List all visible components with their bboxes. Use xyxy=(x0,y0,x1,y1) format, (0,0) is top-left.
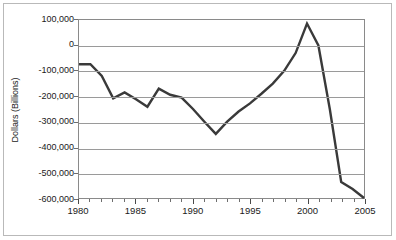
gridline xyxy=(79,174,364,175)
x-axis-minor-tick xyxy=(319,199,320,202)
x-axis-major-tick xyxy=(78,199,79,204)
x-axis-minor-tick xyxy=(216,199,217,202)
y-axis-tick-label: -200,000 xyxy=(38,92,74,101)
x-axis-minor-tick xyxy=(227,199,228,202)
gridline xyxy=(79,123,364,124)
x-axis-tick-label: 1980 xyxy=(67,205,88,216)
x-axis-minor-tick xyxy=(181,199,182,202)
chart-figure: Dollars (Billions) 100,0000-100,000-200,… xyxy=(0,0,396,240)
x-axis-minor-tick xyxy=(204,199,205,202)
x-axis-major-tick xyxy=(135,199,136,204)
gridline xyxy=(79,71,364,72)
x-axis-minor-tick xyxy=(262,199,263,202)
y-axis-tick-label: -400,000 xyxy=(38,143,74,152)
plot-area xyxy=(78,19,365,199)
x-axis-minor-tick xyxy=(239,199,240,202)
x-axis-major-tick xyxy=(250,199,251,204)
y-axis-tick-label: -100,000 xyxy=(38,66,74,75)
x-axis-major-tick xyxy=(193,199,194,204)
x-axis-tick-label: 1990 xyxy=(182,205,203,216)
x-axis-minor-tick xyxy=(273,199,274,202)
x-axis-major-tick xyxy=(308,199,309,204)
gridline xyxy=(79,149,364,150)
x-axis-minor-tick xyxy=(285,199,286,202)
gridline xyxy=(79,97,364,98)
y-axis-tick-label: -300,000 xyxy=(38,117,74,126)
x-axis-minor-tick xyxy=(147,199,148,202)
x-axis-tick-label: 1995 xyxy=(240,205,261,216)
x-axis-tick-label: 2000 xyxy=(297,205,318,216)
x-axis-tick-label: 2005 xyxy=(354,205,375,216)
x-axis-minor-tick xyxy=(89,199,90,202)
x-axis-minor-tick xyxy=(112,199,113,202)
x-axis-minor-tick xyxy=(170,199,171,202)
x-axis-minor-tick xyxy=(158,199,159,202)
x-axis-major-tick xyxy=(365,199,366,204)
x-axis-minor-tick xyxy=(101,199,102,202)
x-axis-tick-label: 1985 xyxy=(125,205,146,216)
x-axis-minor-tick xyxy=(296,199,297,202)
gridline xyxy=(79,46,364,47)
x-axis-minor-tick xyxy=(354,199,355,202)
x-axis-minor-tick xyxy=(331,199,332,202)
y-axis-tick-label: -500,000 xyxy=(38,169,74,178)
x-axis-ticks: 198019851990199520002005 xyxy=(78,199,365,205)
y-axis-tick-label: -600,000 xyxy=(38,195,74,204)
y-axis-tick-label: 100,000 xyxy=(41,15,74,24)
x-axis-minor-tick xyxy=(124,199,125,202)
y-axis-tick-labels: 100,0000-100,000-200,000-300,000-400,000… xyxy=(14,19,74,199)
x-axis-minor-tick xyxy=(342,199,343,202)
series-line-budget xyxy=(79,24,364,198)
